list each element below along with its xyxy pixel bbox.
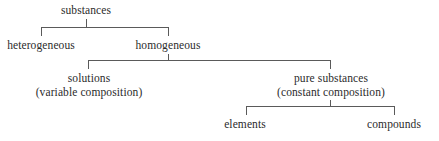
connector-level3-bar: [246, 106, 394, 107]
node-solutions-note: (variable composition): [36, 85, 143, 99]
node-solutions-label: solutions: [36, 71, 143, 85]
connector-level1-right-arm: [168, 27, 169, 36]
node-pure-substances: pure substances (constant composition): [277, 71, 385, 99]
connector-level2-bar: [88, 60, 330, 61]
node-elements: elements: [224, 118, 266, 131]
connector-level1-bar: [41, 27, 168, 28]
node-pure-substances-label: pure substances: [277, 71, 385, 85]
substance-classification-diagram: substances heterogeneous homogeneous sol…: [0, 0, 439, 141]
node-solutions: solutions (variable composition): [36, 71, 143, 99]
connector-root-stem: [86, 19, 87, 27]
connector-level3-right-arm: [394, 106, 395, 115]
connector-level2-right-arm: [330, 60, 331, 69]
connector-level1-left-arm: [41, 27, 42, 36]
node-homogeneous: homogeneous: [136, 39, 201, 52]
connector-level3-left-arm: [246, 106, 247, 115]
node-heterogeneous: heterogeneous: [7, 39, 75, 52]
node-substances: substances: [61, 4, 111, 17]
node-compounds: compounds: [367, 118, 421, 131]
connector-level2-left-arm: [88, 60, 89, 69]
node-pure-substances-note: (constant composition): [277, 85, 385, 99]
